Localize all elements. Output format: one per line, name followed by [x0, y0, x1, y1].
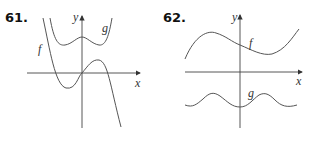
curve-label-f-62: f — [249, 36, 252, 51]
graph-62 — [185, 15, 302, 128]
axis-label-y-62: y — [232, 10, 237, 25]
curve-f — [185, 29, 299, 59]
graphs — [0, 0, 310, 143]
axis-label-y-61: y — [73, 10, 78, 25]
curve-label-f-61: f — [38, 42, 41, 57]
graph-61 — [27, 16, 140, 128]
axis-label-x-62: x — [296, 74, 301, 89]
axis-label-x-61: x — [135, 76, 140, 91]
curve-label-g-61: g — [102, 21, 108, 36]
curve-label-g-62: g — [248, 86, 254, 101]
curve-g — [185, 93, 297, 107]
